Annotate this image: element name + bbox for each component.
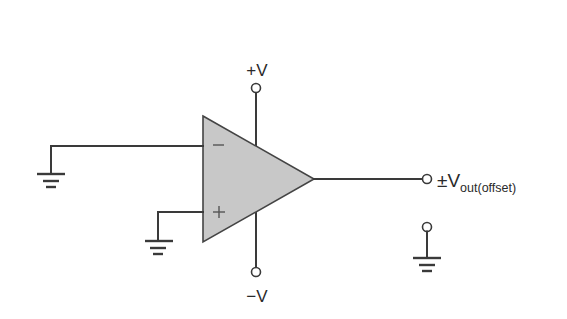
negative-supply-label: −V <box>246 287 268 306</box>
reference-terminal-icon <box>423 223 432 232</box>
ground-icon-noninverting <box>145 241 173 254</box>
output-label: ±Vout(offset) <box>437 170 516 195</box>
positive-supply-terminal-icon <box>252 84 261 93</box>
output-terminal-icon <box>423 175 432 184</box>
output-label-subscript: out(offset) <box>460 181 516 195</box>
noninverting-input-wire <box>158 212 203 241</box>
ground-icon-inverting <box>37 174 65 187</box>
positive-supply-label: +V <box>246 61 268 80</box>
opamp-triangle <box>203 116 314 242</box>
ground-icon-output-reference <box>413 258 441 271</box>
inverting-input-wire <box>51 146 203 174</box>
negative-supply-terminal-icon <box>252 268 261 277</box>
opamp-circuit-diagram: +V −V ±Vout(offset) <box>0 0 567 319</box>
output-label-main: ±V <box>437 170 460 191</box>
